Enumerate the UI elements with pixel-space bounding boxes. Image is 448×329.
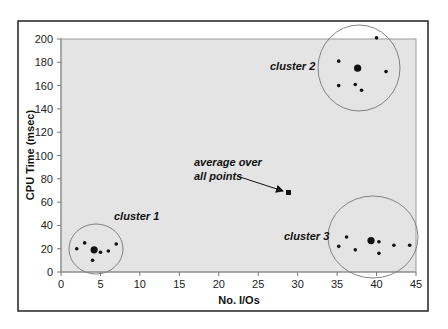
x-tick-label: 5 — [97, 278, 103, 290]
y-tick-label: 100 — [35, 150, 53, 162]
y-tick-label: 0 — [47, 266, 53, 278]
data-point — [345, 235, 349, 239]
data-point — [408, 243, 412, 247]
data-point — [91, 259, 95, 263]
x-tick-label: 35 — [331, 278, 343, 290]
data-point — [392, 243, 396, 247]
y-tick-label: 160 — [35, 80, 53, 92]
x-tick-label: 30 — [292, 278, 304, 290]
x-tick-label: 0 — [58, 278, 64, 290]
y-tick-label: 40 — [41, 219, 53, 231]
data-point — [83, 241, 87, 245]
y-tick-label: 20 — [41, 243, 53, 255]
y-tick-label: 180 — [35, 56, 53, 68]
data-point — [75, 247, 79, 251]
data-point — [377, 252, 381, 256]
y-tick-label: 60 — [41, 196, 53, 208]
centroid-point — [354, 65, 361, 72]
average-point-marker — [286, 190, 291, 195]
data-point — [353, 248, 357, 252]
data-point — [337, 84, 341, 88]
x-tick-label: 10 — [134, 278, 146, 290]
data-point — [337, 245, 341, 249]
data-point — [353, 83, 357, 87]
cluster-3-label: cluster 3 — [284, 230, 329, 242]
y-axis-title: CPU Time (msec) — [24, 110, 36, 201]
data-point — [384, 70, 388, 74]
centroid-point — [91, 246, 98, 253]
cluster-2-label: cluster 2 — [270, 60, 315, 72]
data-point — [360, 88, 364, 92]
average-label-line1: average over — [194, 156, 263, 168]
y-tick-label: 80 — [41, 173, 53, 185]
x-tick-label: 20 — [213, 278, 225, 290]
x-tick-label: 15 — [173, 278, 185, 290]
x-tick-label: 25 — [252, 278, 264, 290]
data-point — [107, 249, 111, 253]
data-point — [337, 59, 341, 63]
y-tick-label: 140 — [35, 103, 53, 115]
x-tick-label: 40 — [370, 278, 382, 290]
data-point — [99, 250, 103, 254]
y-tick-label: 120 — [35, 126, 53, 138]
y-tick-label: 200 — [35, 33, 53, 45]
x-tick-label: 45 — [410, 278, 422, 290]
data-point — [375, 36, 379, 40]
average-label-line2: all points — [194, 170, 242, 182]
scatter-chart: 020406080100120140160180200 051015202530… — [0, 0, 448, 329]
centroid-point — [367, 237, 374, 244]
cluster-1-label: cluster 1 — [114, 210, 159, 222]
data-point — [114, 242, 118, 246]
data-point — [377, 240, 381, 244]
x-axis-title: No. I/Os — [218, 294, 260, 306]
